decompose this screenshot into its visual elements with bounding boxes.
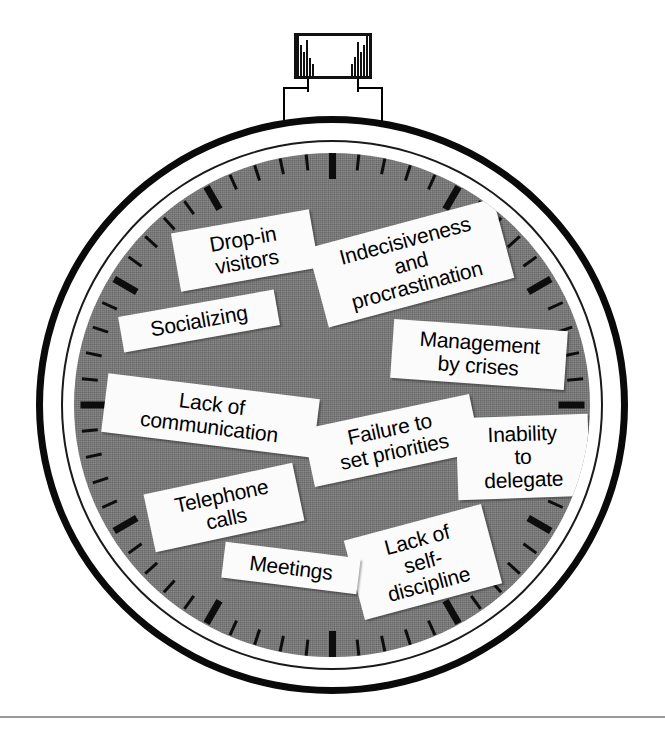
dial-tick-major <box>526 276 552 295</box>
dial-tick-minor <box>228 174 237 190</box>
dial-tick-minor <box>547 500 563 509</box>
dial-tick-minor <box>92 477 108 485</box>
time-waster-label-inability-to-delegate: Inability to delegate <box>456 414 590 501</box>
dial-tick-major <box>442 599 461 625</box>
dial-tick-minor <box>380 158 386 174</box>
dial-tick-major <box>203 599 222 625</box>
dial-tick-minor <box>404 165 412 181</box>
dial-tick-minor <box>101 301 117 310</box>
dial-tick-minor <box>101 500 117 509</box>
dial-tick-minor <box>162 579 175 593</box>
dial-tick-minor <box>253 629 261 645</box>
watch-dial: Drop-in visitorsIndecisiveness and procr… <box>74 153 590 657</box>
dial-tick-minor <box>253 165 261 181</box>
dial-tick-minor <box>547 301 563 310</box>
dial-tick-minor <box>404 629 412 645</box>
dial-tick-major <box>112 515 138 534</box>
dial-tick-minor <box>380 636 386 652</box>
bottom-divider-rule <box>0 716 665 718</box>
dial-tick-major <box>329 153 336 179</box>
crown-knurl-left <box>297 36 315 76</box>
dial-tick-minor <box>522 256 537 268</box>
dial-tick-minor <box>127 543 142 555</box>
dial-tick-major <box>526 515 552 534</box>
dial-tick-minor <box>183 200 195 215</box>
dial-tick-major <box>329 631 336 657</box>
dial-tick-minor <box>127 256 142 268</box>
dial-tick-major <box>80 402 106 409</box>
dial-tick-minor <box>144 562 158 575</box>
dial-tick-minor <box>278 636 284 652</box>
dial-tick-minor <box>304 154 309 170</box>
dial-tick-minor <box>81 377 97 382</box>
stopwatch-body: Drop-in visitorsIndecisiveness and procr… <box>36 116 628 694</box>
time-waster-label-management-by-crises: Management by crises <box>390 319 568 390</box>
dial-tick-minor <box>144 235 158 248</box>
dial-tick-minor <box>355 640 360 656</box>
dial-tick-minor <box>85 453 101 459</box>
dial-tick-minor <box>162 217 175 231</box>
dial-tick-minor <box>506 235 520 248</box>
dial-tick-minor <box>81 428 97 433</box>
dial-tick-major <box>558 402 584 409</box>
dial-tick-minor <box>183 595 195 610</box>
dial-tick-minor <box>355 154 360 170</box>
dial-tick-minor <box>228 620 237 636</box>
dial-tick-minor <box>567 377 583 382</box>
dial-tick-minor <box>427 620 436 636</box>
dial-tick-minor <box>470 595 482 610</box>
dial-tick-minor <box>85 351 101 357</box>
figure-stage: Drop-in visitorsIndecisiveness and procr… <box>0 0 665 733</box>
dial-tick-major <box>203 185 222 211</box>
dial-tick-minor <box>522 543 537 555</box>
crown-knob[interactable] <box>294 33 372 79</box>
dial-tick-minor <box>92 326 108 334</box>
dial-tick-minor <box>427 174 436 190</box>
dial-tick-minor <box>278 158 284 174</box>
dial-tick-major <box>112 276 138 295</box>
dial-tick-minor <box>506 562 520 575</box>
crown-knurl-right <box>351 36 369 76</box>
dial-tick-minor <box>304 640 309 656</box>
